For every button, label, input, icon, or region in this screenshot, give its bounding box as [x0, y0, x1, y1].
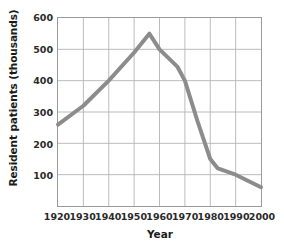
x-axis-label: Year [57, 228, 263, 240]
y-tick-label: 200 [23, 138, 53, 149]
plot-area [57, 17, 262, 207]
y-tick-label: 600 [23, 12, 53, 23]
series-polyline [58, 34, 261, 188]
data-series-line [58, 18, 261, 206]
y-tick-label: 500 [23, 43, 53, 54]
chart-figure: Resident patients (thousands) 1002003004… [0, 0, 284, 252]
x-tick-label: 2000 [242, 211, 282, 222]
y-tick-label: 300 [23, 107, 53, 118]
x-axis-tick-labels: 192019301940195019601970198019902000 [57, 211, 263, 227]
y-tick-label: 100 [23, 170, 53, 181]
y-tick-label: 400 [23, 75, 53, 86]
